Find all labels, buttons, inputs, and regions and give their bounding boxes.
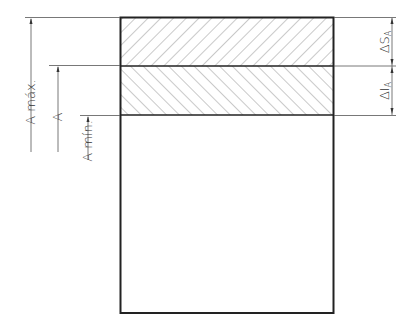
label-delta-i: ΔIA bbox=[377, 81, 393, 100]
label-a-max: A máx. bbox=[23, 79, 38, 124]
arrow-icon bbox=[391, 108, 394, 114]
upper-deviation-zone bbox=[121, 18, 333, 66]
arrow-icon bbox=[30, 18, 33, 24]
arrow-icon bbox=[391, 67, 394, 73]
arrow-icon bbox=[57, 66, 60, 72]
lower-deviation-zone bbox=[121, 66, 333, 115]
label-a-min: A mín. bbox=[80, 120, 95, 162]
label-delta-s: ΔSA bbox=[377, 30, 393, 53]
label-a-nominal: A bbox=[50, 112, 65, 121]
svg-text:ΔIA: ΔIA bbox=[377, 81, 393, 100]
arrow-icon bbox=[391, 59, 394, 65]
tolerance-diagram: A máx. A A mín. ΔSA ΔIA bbox=[0, 0, 413, 330]
arrow-icon bbox=[391, 18, 394, 24]
svg-text:ΔSA: ΔSA bbox=[377, 30, 393, 53]
